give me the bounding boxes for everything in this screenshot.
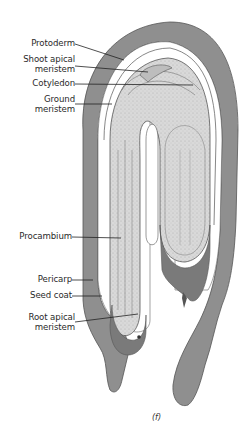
label-ground-meristem: Ground meristem xyxy=(35,94,75,114)
label-root-apical-meristem: Root apical meristem xyxy=(28,312,75,332)
panel-label: (f) xyxy=(152,413,161,422)
label-procambium: Procambium xyxy=(19,231,72,241)
label-seed-coat: Seed coat xyxy=(30,290,72,300)
label-pericarp: Pericarp xyxy=(38,274,72,284)
label-shoot-apical-meristem: Shoot apical meristem xyxy=(23,54,75,74)
label-protoderm: Protoderm xyxy=(31,38,75,48)
seed-embryo-diagram: Protoderm Shoot apical meristem Cotyledo… xyxy=(0,0,245,434)
label-cotyledon: Cotyledon xyxy=(32,78,75,88)
